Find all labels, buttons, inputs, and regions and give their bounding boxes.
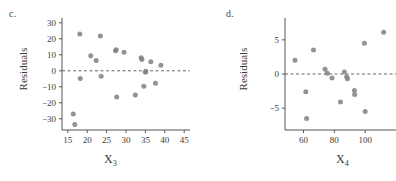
data-point — [114, 47, 119, 52]
data-point — [148, 59, 153, 64]
data-point — [363, 109, 368, 114]
y-tick-label: 0 — [52, 66, 57, 76]
x-tick-label: 30 — [122, 135, 132, 145]
data-point — [311, 48, 316, 53]
y-tick-label: 30 — [47, 18, 57, 28]
data-point — [133, 93, 138, 98]
x-tick-label: 20 — [83, 135, 93, 145]
data-point — [72, 122, 77, 127]
data-point — [99, 74, 104, 79]
data-point — [352, 92, 357, 97]
data-point — [362, 41, 367, 46]
y-tick-label: −20 — [42, 98, 57, 108]
x-tick-label: 80 — [330, 135, 340, 145]
data-point — [345, 76, 350, 81]
data-point — [330, 76, 335, 81]
x-tick-label: 60 — [299, 135, 309, 145]
data-point — [77, 32, 82, 37]
data-point — [381, 30, 386, 35]
y-tick-label: 10 — [47, 50, 57, 60]
x-tick-label: 25 — [102, 135, 112, 145]
data-point — [153, 81, 158, 86]
data-point — [122, 50, 127, 55]
x-tick-label: 45 — [180, 135, 190, 145]
data-point — [114, 95, 119, 100]
data-point — [143, 69, 148, 74]
x-tick-label: 15 — [63, 135, 73, 145]
data-point — [98, 34, 103, 39]
panel-c: c. Residuals X3 3020100−10−20−3015202530… — [0, 0, 198, 181]
data-point — [325, 71, 330, 76]
x-tick-label: 40 — [160, 135, 170, 145]
panel-c-plot: 3020100−10−20−3015202530354045 — [0, 0, 198, 181]
y-tick-label: 5 — [275, 35, 280, 45]
data-point — [303, 89, 308, 94]
data-point — [94, 58, 99, 63]
y-tick-label: −5 — [269, 103, 279, 113]
panel-d-plot: 50−56080100 — [198, 0, 396, 181]
data-point — [78, 76, 83, 81]
data-point — [158, 63, 163, 68]
data-point — [141, 84, 146, 89]
data-point — [338, 100, 343, 105]
data-point — [139, 57, 144, 62]
y-tick-label: 20 — [47, 34, 57, 44]
x-tick-label: 100 — [358, 135, 372, 145]
residual-plots-figure: c. Residuals X3 3020100−10−20−3015202530… — [0, 0, 396, 181]
panel-d: d. Residuals X4 50−56080100 — [198, 0, 396, 181]
y-tick-label: −10 — [42, 82, 57, 92]
data-point — [342, 69, 347, 74]
y-tick-label: 0 — [275, 69, 280, 79]
data-point — [88, 53, 93, 58]
data-point — [71, 112, 76, 117]
data-point — [293, 58, 298, 63]
data-point — [304, 116, 309, 121]
x-tick-label: 35 — [141, 135, 151, 145]
y-tick-label: −30 — [42, 114, 57, 124]
